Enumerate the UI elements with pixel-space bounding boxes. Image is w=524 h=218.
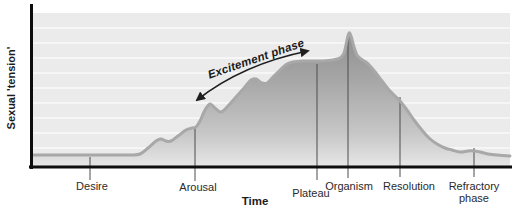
phase-label-organism: Organism [325,181,373,192]
x-axis-label: Time [242,196,269,207]
phase-label-desire: Desire [76,181,108,192]
y-axis-line [30,4,33,169]
sexual-response-cycle-figure: Sexual 'tension' Excitement phase Desire… [0,0,524,218]
phase-label-refractory: Refractory phase [439,181,509,204]
phase-label-plateau: Plateau [292,188,329,199]
x-axis-line [29,166,512,169]
phase-label-arousal: Arousal [179,182,216,193]
phase-label-resolution: Resolution [383,181,435,192]
y-axis-label: Sexual 'tension' [6,47,17,130]
